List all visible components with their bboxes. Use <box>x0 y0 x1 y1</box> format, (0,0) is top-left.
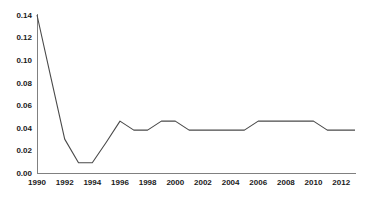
x-tick-label: 1996 <box>111 178 129 187</box>
x-tick-label: 1992 <box>56 178 74 187</box>
line-chart: 0.000.020.040.060.080.100.120.14 1990199… <box>0 0 368 206</box>
y-tick-label: 0.00 <box>16 169 32 178</box>
y-tick-label: 0.06 <box>16 101 32 110</box>
x-tick-label: 1990 <box>28 178 46 187</box>
x-tick-label: 2002 <box>194 178 212 187</box>
y-tick-label: 0.10 <box>16 56 32 65</box>
y-tick-label: 0.04 <box>16 124 32 133</box>
y-tick-label: 0.14 <box>16 11 32 20</box>
x-tick-label: 2008 <box>277 178 295 187</box>
x-tick-label: 2004 <box>222 178 240 187</box>
x-tick-label: 2000 <box>166 178 184 187</box>
y-axis-tick-labels: 0.000.020.040.060.080.100.120.14 <box>16 11 32 178</box>
y-tick-label: 0.02 <box>16 146 32 155</box>
x-tick-label: 2012 <box>332 178 350 187</box>
x-tick-label: 2010 <box>305 178 323 187</box>
x-tick-label: 1994 <box>83 178 101 187</box>
y-tick-label: 0.08 <box>16 79 32 88</box>
line-chart-figure: 0.000.020.040.060.080.100.120.14 1990199… <box>0 0 368 206</box>
x-axis-tick-labels: 1990199219941996199820002002200420062008… <box>28 178 351 187</box>
data-series-line <box>37 15 355 163</box>
x-tick-label: 1998 <box>139 178 157 187</box>
x-tick-label: 2006 <box>249 178 267 187</box>
axis-spines <box>37 14 356 173</box>
y-tick-label: 0.12 <box>16 33 32 42</box>
